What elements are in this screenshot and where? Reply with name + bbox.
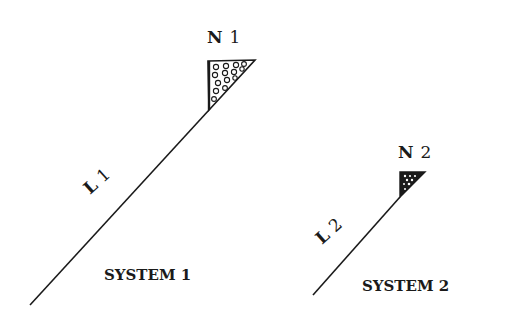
system-2: N2 L2 SYSTEM 2 [311, 142, 449, 295]
node-n1-triangle [208, 60, 255, 110]
diagram-canvas: N1 L1 SYSTEM 1 N2 L2 [0, 0, 505, 312]
node-n2-triangle [400, 172, 425, 197]
system-1: N1 L1 SYSTEM 1 [30, 27, 255, 305]
node-n2-label: N2 [398, 142, 431, 162]
system-1-title: SYSTEM 1 [104, 266, 191, 284]
system-2-title: SYSTEM 2 [362, 277, 449, 295]
node-n1-label: N1 [207, 27, 240, 47]
line-l1-label: L1 [79, 164, 114, 198]
line-l2-label: L2 [311, 214, 346, 248]
